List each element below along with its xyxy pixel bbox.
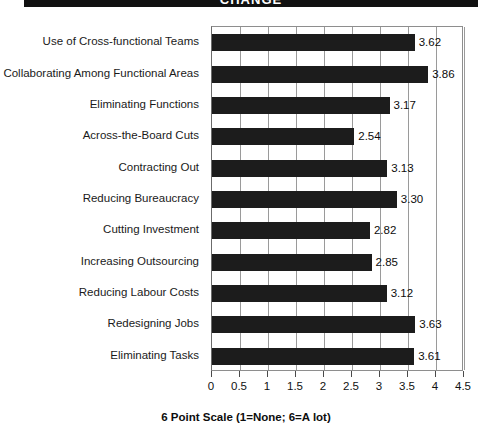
- bar: [212, 34, 415, 51]
- category-label: Cutting Investment: [0, 223, 199, 236]
- category-label: Collaborating Among Functional Areas: [0, 67, 199, 80]
- bar: [212, 66, 428, 83]
- chart-title-banner: CHANGE: [24, 0, 478, 7]
- bar: [212, 222, 370, 239]
- category-label: Contracting Out: [0, 161, 199, 174]
- bar-value-label: 3.63: [419, 318, 441, 331]
- bar-value-label: 2.82: [374, 224, 396, 237]
- x-tick-label: 4.5: [443, 379, 483, 393]
- x-tick: [239, 371, 240, 377]
- x-axis-ticks: [211, 371, 463, 377]
- category-label: Reducing Bureaucracy: [0, 192, 199, 205]
- bar-value-label: 3.61: [418, 350, 440, 363]
- bar-value-label: 3.17: [394, 99, 416, 112]
- bar: [212, 285, 387, 302]
- bar-value-label: 3.30: [401, 193, 423, 206]
- category-axis-labels: Use of Cross-functional TeamsCollaborati…: [0, 26, 205, 371]
- bar-value-label: 3.13: [391, 162, 413, 175]
- bar: [212, 160, 387, 177]
- chart-title: CHANGE: [24, 0, 478, 7]
- x-tick: [267, 371, 268, 377]
- category-label: Redesigning Jobs: [0, 317, 199, 330]
- x-tick: [435, 371, 436, 377]
- category-label: Eliminating Functions: [0, 98, 199, 111]
- plot-area: 3.623.863.172.543.133.302.822.853.123.63…: [211, 26, 463, 371]
- category-label: Eliminating Tasks: [0, 349, 199, 362]
- category-label: Increasing Outsourcing: [0, 255, 199, 268]
- bar-value-label: 2.54: [358, 130, 380, 143]
- x-tick: [379, 371, 380, 377]
- x-tick: [295, 371, 296, 377]
- x-tick: [211, 371, 212, 377]
- category-label: Across-the-Board Cuts: [0, 129, 199, 142]
- bar: [212, 97, 390, 114]
- bar: [212, 316, 415, 333]
- x-tick: [351, 371, 352, 377]
- bar-value-label: 3.12: [391, 287, 413, 300]
- category-label: Use of Cross-functional Teams: [0, 35, 199, 48]
- bar-chart-figure: CHANGE Use of Cross-functional TeamsColl…: [0, 0, 492, 444]
- bar: [212, 254, 372, 271]
- gridline: [464, 27, 465, 370]
- bar-value-label: 3.86: [432, 68, 454, 81]
- bar: [212, 128, 354, 145]
- bar: [212, 348, 414, 365]
- bar-value-label: 3.62: [419, 36, 441, 49]
- bar: [212, 191, 397, 208]
- category-label: Reducing Labour Costs: [0, 286, 199, 299]
- x-axis-tick-labels: 00.511.522.533.544.5: [191, 379, 483, 395]
- x-tick: [463, 371, 464, 377]
- x-tick: [407, 371, 408, 377]
- bar-value-label: 2.85: [376, 256, 398, 269]
- x-axis-title: 6 Point Scale (1=None; 6=A lot): [0, 410, 492, 424]
- x-tick: [323, 371, 324, 377]
